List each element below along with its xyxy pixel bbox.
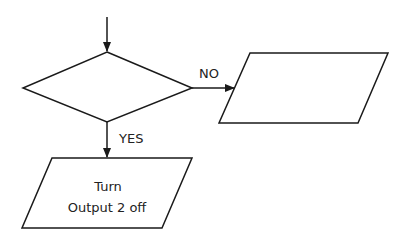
flowchart-svg: NO YES Turn Output 2 off [0, 0, 406, 242]
yes-output-line-1: Turn [93, 179, 122, 194]
yes-label: YES [118, 131, 143, 146]
no-output-parallelogram [219, 53, 388, 123]
flowchart-canvas: NO YES Turn Output 2 off [0, 0, 406, 242]
decision-diamond [23, 52, 192, 122]
yes-output-line-2: Output 2 off [68, 200, 148, 215]
no-label: NO [199, 66, 219, 81]
